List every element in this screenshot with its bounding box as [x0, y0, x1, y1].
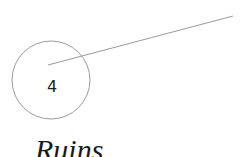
leader-line	[48, 16, 233, 65]
location-label: Ruins	[34, 133, 103, 157]
callout-diagram: 4 Ruins	[0, 0, 246, 157]
marker-number: 4	[47, 77, 57, 96]
